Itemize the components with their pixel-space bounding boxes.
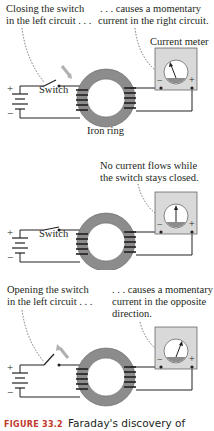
svg-text:+: + bbox=[189, 218, 195, 229]
svg-text:+: + bbox=[7, 82, 13, 94]
leader-line bbox=[138, 184, 155, 213]
leader-line bbox=[22, 28, 44, 82]
leader-line bbox=[135, 28, 155, 70]
panel-switch-closed: No current flows while the switch stays … bbox=[0, 140, 212, 270]
switch-icon bbox=[44, 227, 82, 232]
figure-number: FIGURE 33.2 bbox=[4, 420, 63, 429]
svg-text:−: − bbox=[157, 75, 163, 86]
circuit-diagram-2: + − bbox=[0, 140, 212, 270]
svg-text:−: − bbox=[7, 386, 13, 398]
svg-text:−: − bbox=[157, 354, 163, 365]
current-meter-icon: − + bbox=[155, 48, 197, 90]
figure-caption-text: Faraday's discovery of bbox=[68, 417, 185, 429]
figure-caption: FIGURE 33.2 Faraday's discovery of bbox=[4, 412, 185, 431]
svg-text:+: + bbox=[7, 226, 13, 238]
current-meter-icon: − + bbox=[155, 327, 197, 369]
battery-icon: + − bbox=[7, 226, 28, 263]
svg-text:−: − bbox=[7, 107, 13, 119]
panel-closing-switch: Closing the switch in the left circuit .… bbox=[0, 0, 212, 140]
motion-arrow-icon bbox=[62, 66, 70, 76]
motion-arrow-icon bbox=[60, 348, 68, 358]
leader-line bbox=[22, 310, 44, 362]
leader-line bbox=[140, 322, 155, 348]
battery-icon: + − bbox=[7, 361, 28, 398]
svg-text:+: + bbox=[189, 353, 195, 364]
circuit-diagram-3: + − bbox=[0, 270, 212, 410]
svg-text:+: + bbox=[189, 74, 195, 85]
battery-icon: + − bbox=[7, 82, 28, 119]
switch-icon bbox=[44, 354, 82, 367]
svg-text:−: − bbox=[157, 219, 163, 230]
switch-icon bbox=[44, 80, 82, 88]
svg-text:+: + bbox=[7, 361, 13, 373]
current-meter-icon: − + bbox=[155, 192, 197, 234]
circuit-diagram-1: + − bbox=[0, 0, 212, 140]
svg-text:−: − bbox=[7, 251, 13, 263]
panel-opening-switch: Opening the switch in the left circuit .… bbox=[0, 270, 212, 410]
